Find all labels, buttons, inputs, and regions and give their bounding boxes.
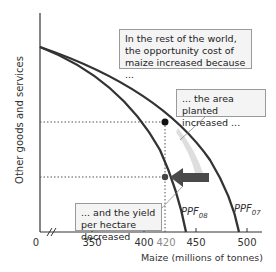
tick-450: 450 bbox=[186, 237, 205, 248]
point-ppf07 bbox=[162, 119, 169, 126]
ppf08-label: PPF08 bbox=[181, 206, 208, 220]
point-ppf08 bbox=[162, 174, 168, 180]
x-axis-label: Maize (millions of tonnes) bbox=[141, 252, 263, 263]
tick-400: 400 bbox=[134, 237, 153, 248]
tick-0: 0 bbox=[33, 237, 39, 248]
callout-yield: ... and the yield per hectare decreased bbox=[75, 203, 162, 231]
callout-opportunity-cost: In the rest of the world, the opportunit… bbox=[119, 29, 252, 69]
tick-420: 420 bbox=[156, 237, 175, 248]
ppf07-label: PPF07 bbox=[234, 203, 261, 217]
leftward-shift-arrow-icon bbox=[170, 168, 209, 187]
callout-area-planted: ... the area planted increased ... bbox=[176, 89, 266, 117]
y-axis-label: Other goods and services bbox=[14, 56, 25, 184]
tick-500: 500 bbox=[237, 237, 256, 248]
